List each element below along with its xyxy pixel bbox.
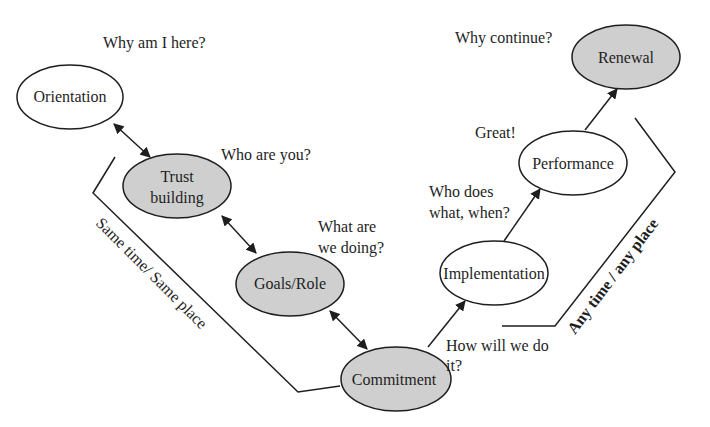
question-performance: Great! bbox=[475, 124, 516, 141]
node-implementation: Implementation bbox=[440, 241, 548, 305]
node-trust-building-label-line1: Trust bbox=[160, 168, 194, 185]
node-goals-role: Goals/Role bbox=[236, 252, 344, 316]
question-commitment-line1: How will we do bbox=[446, 337, 549, 354]
right-bracket-label: Any time / any place bbox=[564, 215, 662, 337]
question-implementation-line2: what, when? bbox=[429, 204, 510, 221]
node-implementation-label: Implementation bbox=[443, 265, 544, 283]
node-trust-building: Trust building bbox=[123, 154, 231, 218]
node-renewal: Renewal bbox=[572, 25, 680, 89]
question-commitment-line2: it? bbox=[446, 357, 462, 374]
question-trust-building: Who are you? bbox=[221, 146, 311, 164]
edge-trust-goals bbox=[222, 216, 256, 253]
question-orientation: Why am I here? bbox=[103, 34, 206, 52]
node-renewal-label: Renewal bbox=[598, 49, 655, 66]
node-performance: Performance bbox=[519, 131, 627, 195]
left-bracket-label: Same time/ Same place bbox=[92, 214, 211, 333]
node-orientation-label: Orientation bbox=[34, 88, 107, 105]
question-implementation-line1: Who does bbox=[429, 183, 493, 200]
question-renewal: Why continue? bbox=[455, 29, 552, 47]
edge-performance-renewal bbox=[585, 89, 617, 130]
node-goals-role-label: Goals/Role bbox=[254, 275, 326, 292]
question-goals-role-line2: we doing? bbox=[318, 239, 384, 257]
node-commitment: Commitment bbox=[341, 347, 451, 411]
team-performance-model-diagram: Same time/ Same place Any time / any pla… bbox=[0, 0, 710, 427]
question-goals-role-line1: What are bbox=[318, 218, 376, 235]
node-trust-building-label-line2: building bbox=[150, 189, 203, 207]
node-commitment-label: Commitment bbox=[352, 371, 437, 388]
edge-goals-commitment bbox=[330, 311, 367, 349]
edge-orientation-trust bbox=[114, 124, 150, 157]
node-orientation: Orientation bbox=[17, 65, 123, 129]
node-performance-label: Performance bbox=[532, 155, 614, 172]
